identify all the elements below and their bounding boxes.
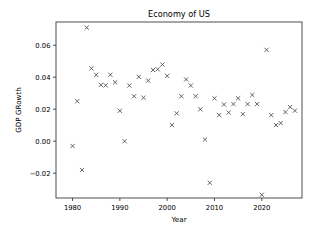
data-point xyxy=(108,73,112,77)
y-axis-label: GDP GRowth xyxy=(14,87,23,133)
data-point xyxy=(193,94,197,98)
data-point xyxy=(293,109,297,113)
data-point xyxy=(132,94,136,98)
y-tick-label: 0.06 xyxy=(35,42,50,50)
data-point xyxy=(99,83,103,87)
data-point xyxy=(118,109,122,113)
data-point xyxy=(222,102,226,106)
data-point xyxy=(264,48,268,52)
data-point xyxy=(179,94,183,98)
data-point xyxy=(156,67,160,71)
data-point xyxy=(151,68,155,72)
data-point xyxy=(241,112,245,116)
data-point xyxy=(113,80,117,84)
data-points xyxy=(70,26,297,197)
x-tick-label: 1980 xyxy=(64,204,81,212)
y-tick-label: 0.04 xyxy=(35,74,50,82)
data-point xyxy=(288,105,292,109)
x-tick-label: 1990 xyxy=(111,204,128,212)
x-axis-label: Year xyxy=(170,215,186,224)
data-point xyxy=(260,193,264,197)
y-tick-label: −0.02 xyxy=(30,170,51,178)
data-point xyxy=(203,138,207,142)
data-point xyxy=(137,75,141,79)
data-point xyxy=(85,26,89,30)
data-point xyxy=(75,99,79,103)
data-point xyxy=(231,102,235,106)
data-point xyxy=(170,123,174,127)
data-point xyxy=(283,110,287,114)
data-point xyxy=(94,73,98,77)
data-point xyxy=(160,62,164,66)
data-point xyxy=(212,96,216,100)
data-point xyxy=(122,139,126,143)
data-point xyxy=(198,107,202,111)
chart-title: Economy of US xyxy=(148,9,210,19)
y-tick-label: 0.02 xyxy=(35,106,50,114)
data-point xyxy=(189,83,193,87)
x-tick-label: 2010 xyxy=(206,204,223,212)
y-axis: −0.020.000.020.040.06 xyxy=(30,42,56,178)
data-point xyxy=(217,113,221,117)
data-point xyxy=(89,66,93,70)
data-point xyxy=(146,78,150,82)
chart-figure: 19801990200020102020−0.020.000.020.040.0… xyxy=(0,0,318,230)
data-point xyxy=(104,83,108,87)
data-point xyxy=(70,144,74,148)
data-point xyxy=(175,111,179,115)
data-point xyxy=(80,168,84,172)
y-tick-label: 0.00 xyxy=(35,138,50,146)
data-point xyxy=(250,93,254,97)
data-point xyxy=(279,121,283,125)
data-point xyxy=(274,123,278,127)
data-point xyxy=(236,96,240,100)
x-tick-label: 2000 xyxy=(159,204,176,212)
x-tick-label: 2020 xyxy=(253,204,270,212)
data-point xyxy=(165,74,169,78)
scatter-plot: 19801990200020102020−0.020.000.020.040.0… xyxy=(0,0,318,230)
data-point xyxy=(127,83,131,87)
data-point xyxy=(255,102,259,106)
data-point xyxy=(208,181,212,185)
data-point xyxy=(245,102,249,106)
x-axis: 19801990200020102020 xyxy=(64,198,271,212)
data-point xyxy=(141,96,145,100)
data-point xyxy=(269,113,273,117)
data-point xyxy=(184,77,188,81)
data-point xyxy=(227,110,231,114)
